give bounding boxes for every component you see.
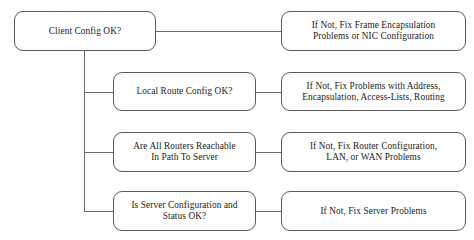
connector-routers-to-fix: [256, 152, 281, 153]
node-fix-server-problems[interactable]: If Not, Fix Server Problems: [281, 191, 466, 231]
connector-client-to-frame-fix: [156, 31, 281, 32]
node-server-configuration-label: Is Server Configuration and Status OK?: [131, 200, 237, 222]
node-local-route-config[interactable]: Local Route Config OK?: [113, 72, 256, 111]
connector-trunk-to-server: [84, 211, 113, 212]
node-local-route-config-label: Local Route Config OK?: [137, 86, 233, 97]
connector-trunk-vertical: [84, 51, 85, 211]
connector-trunk-to-local-route: [84, 92, 113, 93]
node-routers-reachable-label: Are All Routers Reachable In Path To Ser…: [133, 141, 235, 163]
node-server-configuration[interactable]: Is Server Configuration and Status OK?: [113, 191, 256, 231]
node-client-config[interactable]: Client Config OK?: [14, 11, 156, 51]
node-fix-address-encapsulation-label: If Not, Fix Problems with Address, Encap…: [302, 81, 445, 103]
node-fix-frame-encapsulation[interactable]: If Not, Fix Frame Encapsulation Problems…: [281, 11, 466, 51]
node-fix-address-encapsulation[interactable]: If Not, Fix Problems with Address, Encap…: [281, 72, 466, 111]
flowchart-canvas: Client Config OK? Local Route Config OK?…: [0, 0, 474, 240]
node-fix-router-lan-wan[interactable]: If Not, Fix Router Configuration, LAN, o…: [281, 132, 466, 172]
node-fix-frame-encapsulation-label: If Not, Fix Frame Encapsulation Problems…: [312, 20, 436, 42]
node-fix-router-lan-wan-label: If Not, Fix Router Configuration, LAN, o…: [310, 141, 437, 163]
connector-server-to-fix: [256, 211, 281, 212]
node-routers-reachable[interactable]: Are All Routers Reachable In Path To Ser…: [113, 132, 256, 172]
connector-trunk-to-routers: [84, 152, 113, 153]
node-client-config-label: Client Config OK?: [49, 26, 121, 37]
connector-local-route-to-fix: [256, 92, 281, 93]
node-fix-server-problems-label: If Not, Fix Server Problems: [320, 206, 426, 217]
